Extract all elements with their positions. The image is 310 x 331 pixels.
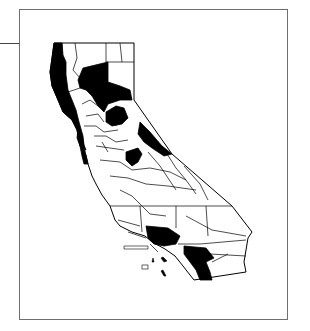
california-county-map <box>0 0 310 331</box>
channel-islands <box>124 246 167 276</box>
island-small-1 <box>152 258 154 262</box>
island-catalina <box>161 257 167 262</box>
island-row <box>124 246 148 249</box>
island-san-nicolas <box>142 265 148 269</box>
island-san-clemente <box>161 270 166 276</box>
